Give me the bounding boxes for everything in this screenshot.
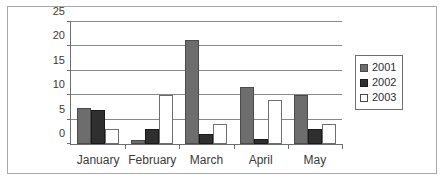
bar-january-2001[interactable] — [77, 108, 91, 144]
y-axis-tick-label: 25 — [53, 6, 65, 17]
x-axis-tick-mark — [288, 144, 289, 149]
legend-swatch-icon — [360, 64, 368, 72]
x-axis-tick-mark — [125, 144, 126, 149]
bar-march-2003[interactable] — [213, 124, 227, 144]
bar-may-2002[interactable] — [308, 129, 322, 144]
x-axis-tick-mark — [179, 144, 180, 149]
bar-april-2002[interactable] — [254, 139, 268, 144]
bar-march-2002[interactable] — [199, 134, 213, 144]
x-axis-category-label: January — [77, 154, 120, 166]
chart-legend: 200120022003 — [355, 55, 403, 110]
legend-item-label: 2002 — [372, 77, 396, 88]
y-axis-tick-label: 0 — [59, 128, 65, 139]
chart-frame: 0510152025JanuaryFebruaryMarchAprilMay 2… — [7, 6, 437, 174]
bar-january-2002[interactable] — [91, 110, 105, 144]
bar-group — [234, 22, 288, 144]
y-axis-tick-label: 15 — [53, 54, 65, 65]
bar-group — [125, 22, 179, 144]
x-axis-category-label: March — [190, 154, 223, 166]
legend-swatch-icon — [360, 94, 368, 102]
bar-february-2001[interactable] — [131, 140, 145, 144]
legend-item-label: 2001 — [372, 62, 396, 73]
plot-area: 0510152025JanuaryFebruaryMarchAprilMay — [70, 22, 342, 145]
legend-item-2002[interactable]: 2002 — [360, 75, 396, 90]
bar-may-2003[interactable] — [322, 124, 336, 144]
x-axis-tick-mark — [234, 144, 235, 149]
x-axis-category-label: May — [304, 154, 327, 166]
x-axis-category-label: April — [249, 154, 273, 166]
bar-group — [179, 22, 233, 144]
bar-april-2003[interactable] — [268, 100, 282, 144]
y-axis-tick-label: 20 — [53, 30, 65, 41]
bar-february-2002[interactable] — [145, 129, 159, 144]
bar-january-2003[interactable] — [105, 129, 119, 144]
y-axis-tick-label: 10 — [53, 79, 65, 90]
bar-group — [288, 22, 342, 144]
legend-item-2001[interactable]: 2001 — [360, 60, 396, 75]
bar-may-2001[interactable] — [294, 95, 308, 144]
x-axis-tick-mark — [342, 144, 343, 149]
bar-march-2001[interactable] — [185, 40, 199, 144]
y-axis-tick-label: 5 — [59, 103, 65, 114]
legend-item-label: 2003 — [372, 92, 396, 103]
bar-february-2003[interactable] — [159, 95, 173, 144]
bar-group — [71, 22, 125, 144]
x-axis-category-label: February — [128, 154, 176, 166]
bar-april-2001[interactable] — [240, 87, 254, 144]
legend-item-2003[interactable]: 2003 — [360, 90, 396, 105]
legend-swatch-icon — [360, 79, 368, 87]
